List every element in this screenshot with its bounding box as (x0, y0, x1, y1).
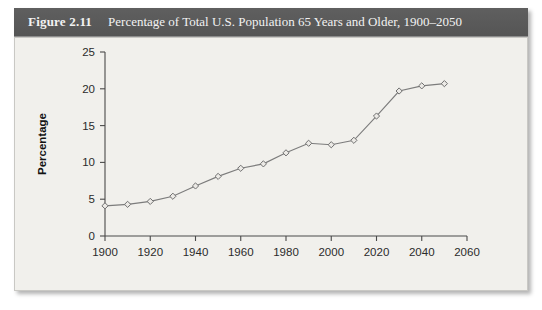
data-point-marker (260, 161, 266, 167)
x-tick-label: 2020 (364, 246, 390, 258)
x-tick-label: 1960 (228, 246, 254, 258)
data-series-line (105, 84, 444, 206)
data-point-marker (102, 203, 108, 209)
y-tick-label: 10 (82, 156, 95, 168)
y-axis-title: Percentage (36, 113, 48, 175)
data-point-marker (147, 198, 153, 204)
data-point-marker (125, 201, 131, 207)
figure-number-label: Figure 2.11 (28, 14, 92, 30)
data-point-marker (192, 183, 198, 189)
y-tick-label: 20 (82, 83, 95, 95)
x-tick-label: 1980 (273, 246, 299, 258)
x-tick-label: 1900 (92, 246, 118, 258)
x-tick-label: 2000 (318, 246, 344, 258)
chart-plot-panel: 0510152025 19001920194019601980200020202… (14, 37, 528, 291)
data-point-markers (102, 81, 448, 209)
x-axis-ticks: 190019201940196019802000202020402060 (92, 236, 480, 258)
data-point-marker (441, 81, 447, 87)
data-point-marker (328, 142, 334, 148)
y-axis-ticks: 0510152025 (82, 46, 105, 242)
figure-title-bar: Figure 2.11 Percentage of Total U.S. Pop… (14, 8, 528, 37)
y-tick-label: 15 (82, 120, 95, 132)
data-point-marker (283, 150, 289, 156)
data-point-marker (238, 165, 244, 171)
x-tick-label: 1920 (137, 246, 163, 258)
data-point-marker (419, 83, 425, 89)
y-tick-label: 25 (82, 46, 95, 58)
data-point-marker (170, 193, 176, 199)
x-tick-label: 2060 (454, 246, 480, 258)
data-point-marker (306, 140, 312, 146)
figure-caption-text: Percentage of Total U.S. Population 65 Y… (108, 14, 462, 30)
x-tick-label: 1940 (183, 246, 209, 258)
y-tick-label: 0 (89, 230, 95, 242)
line-chart-svg: 0510152025 19001920194019601980200020202… (15, 38, 527, 290)
figure-container: Figure 2.11 Percentage of Total U.S. Pop… (14, 8, 528, 291)
y-tick-label: 5 (89, 193, 95, 205)
data-point-marker (215, 173, 221, 179)
x-tick-label: 2040 (409, 246, 435, 258)
